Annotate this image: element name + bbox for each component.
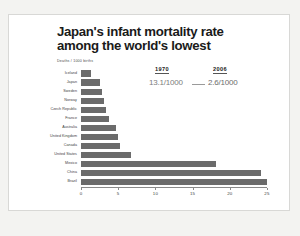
category-label: Sweden: [63, 89, 77, 93]
category-label-row: France: [31, 114, 79, 123]
bar: [81, 107, 106, 113]
category-label-row: Australia: [31, 123, 79, 132]
title-line-2: among the world's lowest: [57, 39, 277, 53]
bar: [81, 79, 100, 85]
tick-label: 10: [153, 191, 158, 196]
category-label: France: [65, 116, 77, 120]
tick-label: 0: [80, 191, 83, 196]
category-label-row: Sweden: [31, 87, 79, 96]
category-label-row: United Kingdom: [31, 132, 79, 141]
bar: [81, 116, 109, 122]
bar: [81, 179, 267, 185]
category-label: China: [67, 170, 77, 174]
bar-row: [81, 142, 277, 151]
bar-row: [81, 114, 277, 123]
tick-label: 25: [264, 191, 269, 196]
slide-canvas: Japan's infant mortality rate among the …: [8, 14, 290, 211]
bar-chart: IcelandJapanSwedenNorwayCzech RepublicFr…: [31, 69, 281, 197]
bars-area: [81, 69, 277, 187]
category-label-row: Norway: [31, 96, 79, 105]
bar: [81, 98, 104, 104]
bar: [81, 125, 116, 131]
category-label-row: Mexico: [31, 160, 79, 169]
category-label: United Kingdom: [50, 134, 77, 138]
bar: [81, 134, 118, 140]
category-label: Iceland: [65, 71, 77, 75]
bar-row: [81, 96, 277, 105]
category-label: Norway: [64, 98, 77, 102]
bar-row: [81, 78, 277, 87]
tick-mark: [155, 188, 156, 190]
bar: [81, 143, 120, 149]
tick-label: 5: [117, 191, 120, 196]
bar: [81, 70, 91, 76]
category-label-row: Czech Republic: [31, 105, 79, 114]
category-label-row: United States: [31, 151, 79, 160]
tick-label: 20: [227, 191, 232, 196]
bar-row: [81, 169, 277, 178]
bar: [81, 89, 102, 95]
tick-mark: [81, 188, 82, 190]
axis-unit-note: Deaths / 1000 births: [57, 59, 93, 63]
category-label: Mexico: [65, 161, 77, 165]
title-line-1: Japan's infant mortality rate: [57, 25, 277, 39]
bar: [81, 170, 261, 176]
category-label: Australia: [62, 125, 77, 129]
category-label-row: Canada: [31, 142, 79, 151]
bar-row: [81, 69, 277, 78]
category-label: United States: [54, 152, 77, 156]
tick-mark: [230, 188, 231, 190]
bar-row: [81, 160, 277, 169]
tick-mark: [267, 188, 268, 190]
category-label: Czech Republic: [50, 107, 77, 111]
category-label-row: Brazil: [31, 178, 79, 187]
bar-row: [81, 87, 277, 96]
bar-row: [81, 151, 277, 160]
page-title: Japan's infant mortality rate among the …: [57, 25, 277, 52]
bar-row: [81, 123, 277, 132]
category-label: Japan: [67, 80, 77, 84]
tick-mark: [193, 188, 194, 190]
category-label: Brazil: [67, 179, 77, 183]
bar: [81, 152, 131, 158]
tick-mark: [118, 188, 119, 190]
bar: [81, 161, 216, 167]
tick-label: 15: [190, 191, 195, 196]
bar-row: [81, 105, 277, 114]
category-label-row: China: [31, 169, 79, 178]
category-label: Canada: [64, 143, 77, 147]
bar-row: [81, 178, 277, 187]
category-label-row: Japan: [31, 78, 79, 87]
category-label-row: Iceland: [31, 69, 79, 78]
x-axis-ticks: 0510152025: [81, 188, 267, 198]
bar-row: [81, 132, 277, 141]
category-axis-labels: IcelandJapanSwedenNorwayCzech RepublicFr…: [31, 69, 79, 187]
